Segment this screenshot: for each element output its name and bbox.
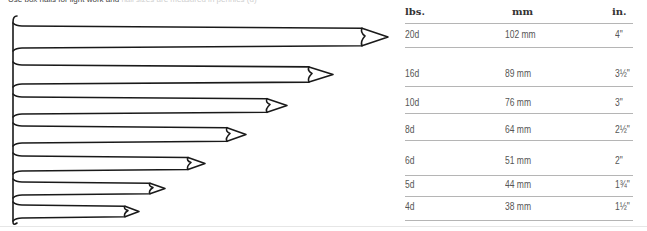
cell-in: 2½": [615, 124, 630, 135]
cell-lbs: 4d: [405, 201, 414, 212]
cell-mm: 38 mm: [505, 201, 531, 212]
nail-8d: [13, 123, 246, 146]
nail-point-facet: [266, 99, 270, 113]
cell-lbs: 6d: [405, 155, 414, 166]
nail-10d: [13, 94, 287, 117]
nail-point-facet: [308, 67, 312, 82]
nail-20d: [13, 23, 388, 51]
nail-6d: [13, 153, 205, 174]
nail-point-facet: [187, 158, 191, 170]
row-divider: [405, 86, 633, 87]
cell-in: 4": [615, 29, 623, 40]
cell-lbs: 10d: [405, 97, 419, 108]
row-divider: [405, 220, 633, 221]
nail-point-facet: [361, 28, 365, 46]
bottom-divider: [0, 226, 647, 227]
row-divider: [405, 113, 633, 114]
header-mm: mm: [512, 6, 533, 22]
cell-lbs: 5d: [405, 179, 414, 190]
cell-mm: 44 mm: [505, 179, 531, 190]
row-divider: [405, 140, 633, 141]
cell-mm: 51 mm: [505, 155, 531, 166]
cell-mm: 102 mm: [505, 29, 536, 40]
nail-size-illustration: [0, 0, 400, 231]
row-divider: [405, 47, 633, 48]
row-divider: [405, 196, 633, 197]
cell-mm: 76 mm: [505, 97, 531, 108]
cell-in: 2": [615, 155, 623, 166]
nail-head-bar: [13, 16, 17, 224]
cell-in: 1¾": [615, 179, 630, 190]
nail-5d: [13, 179, 165, 198]
header-in: in.: [612, 6, 627, 22]
row-divider: [405, 175, 633, 176]
cell-mm: 64 mm: [505, 124, 531, 135]
nail-point-facet: [226, 128, 230, 142]
header-lbs: lbs.: [405, 6, 425, 22]
cell-in: 3½": [615, 68, 630, 79]
cell-mm: 89 mm: [505, 68, 531, 79]
nail-16d: [13, 62, 333, 87]
cell-lbs: 20d: [405, 29, 419, 40]
cell-in: 1½": [615, 201, 630, 212]
nail-4d: [13, 202, 139, 221]
header-divider: [405, 23, 633, 24]
cell-lbs: 16d: [405, 68, 419, 79]
cell-lbs: 8d: [405, 124, 414, 135]
cell-in: 3": [615, 97, 623, 108]
